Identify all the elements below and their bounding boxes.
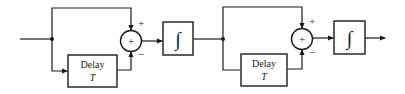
- stage2-delay-block: Delay T: [241, 54, 287, 86]
- stage2-delay-label: Delay: [252, 58, 276, 69]
- stage1-junction-dot: [50, 37, 54, 41]
- stage2-delay-output-path: [287, 50, 302, 69]
- stage1-delay-block: Delay T: [68, 55, 117, 87]
- stage2-direct-path: [223, 7, 302, 39]
- stage1-integrator-block: ∫: [163, 22, 193, 55]
- stage1-top-sign: +: [138, 17, 144, 29]
- stage2-integrator-block: ∫: [334, 21, 365, 54]
- block-diagram: + + − Delay T ∫ + + − Delay T ∫: [0, 0, 405, 94]
- summer-plus-icon: +: [299, 33, 305, 45]
- stage2-top-sign: +: [309, 15, 315, 27]
- stage2-bottom-sign: −: [309, 46, 315, 58]
- stage2-junction-dot: [221, 37, 225, 41]
- stage1-bottom-sign: −: [138, 48, 144, 60]
- summer-plus-icon: +: [128, 35, 134, 47]
- stage2-delay-input-path: [223, 39, 240, 70]
- stage1-direct-path: [52, 8, 131, 39]
- stage1-delay-label: Delay: [81, 59, 105, 70]
- stage1-delay-output-path: [117, 52, 131, 70]
- stage1-delay-input-path: [52, 39, 67, 71]
